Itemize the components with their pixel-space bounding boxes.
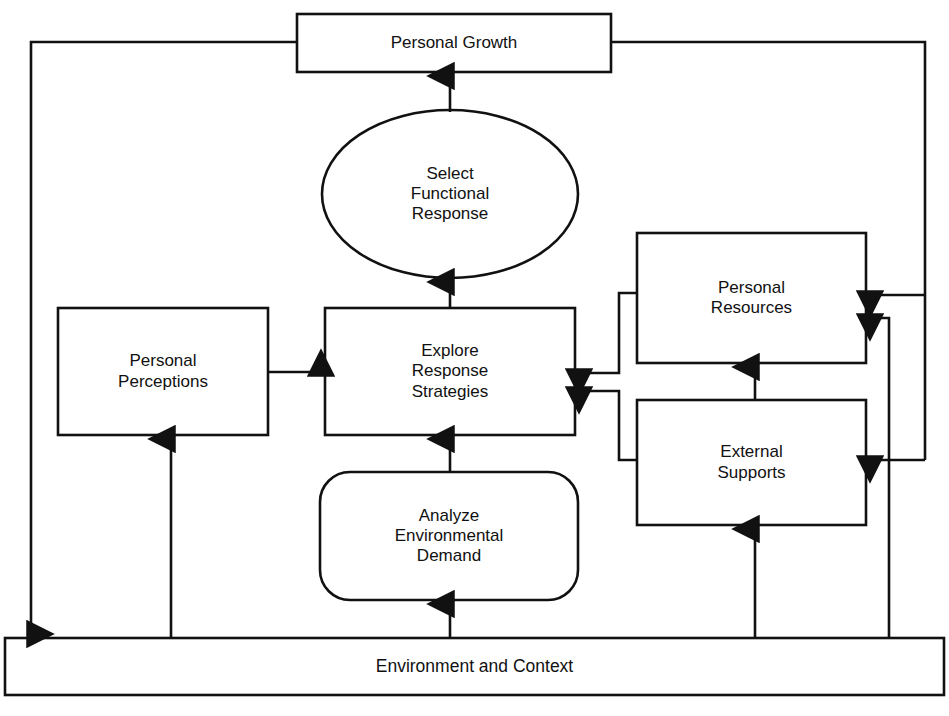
- diagram-svg: [0, 0, 949, 716]
- node-explore-response-strategies[interactable]: [325, 308, 575, 435]
- node-personal-perceptions[interactable]: [58, 308, 268, 435]
- diagram-canvas: Personal Growth Select Functional Respon…: [0, 0, 949, 716]
- node-personal-resources[interactable]: [637, 233, 866, 363]
- node-external-supports[interactable]: [637, 400, 866, 525]
- node-analyze-environmental-demand[interactable]: [320, 472, 578, 600]
- node-select-functional-response[interactable]: [322, 110, 578, 278]
- edge-environment-to-resources: [870, 318, 889, 638]
- node-personal-growth[interactable]: [297, 14, 611, 72]
- node-environment-and-context[interactable]: [5, 638, 944, 695]
- edge-resources-to-explore: [579, 293, 637, 373]
- edge-supports-to-explore: [579, 391, 637, 460]
